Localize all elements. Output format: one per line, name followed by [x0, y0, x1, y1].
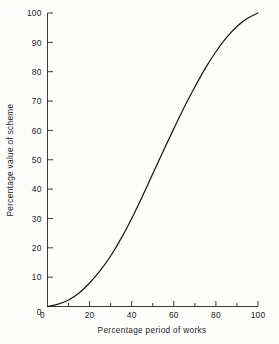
y-tick-label: 60: [32, 126, 42, 136]
s-curve-line: [48, 13, 259, 307]
x-tick-label: 80: [211, 310, 221, 320]
x-axis-label: Percentage period of works: [98, 326, 207, 335]
y-tick-label: 70: [32, 96, 42, 106]
x-tick-label: 20: [85, 310, 95, 320]
s-curve-chart: 0102030405060708090100 020406080100 Perc…: [0, 0, 279, 344]
y-tick-label: 50: [32, 155, 42, 165]
y-axis-label: Percentage value of scheme: [6, 103, 15, 216]
x-axis-tick-labels: 020406080100: [40, 310, 265, 320]
x-tick-label: 40: [127, 310, 137, 320]
x-tick-label: 100: [251, 310, 266, 320]
x-tick-label: 0: [40, 310, 45, 320]
y-axis-ticks: [48, 13, 54, 277]
y-axis-tick-labels: 0102030405060708090100: [27, 8, 42, 317]
y-tick-label: 90: [32, 38, 42, 48]
y-tick-label: 80: [32, 67, 42, 77]
y-tick-label: 20: [32, 243, 42, 253]
y-tick-label: 30: [32, 214, 42, 224]
y-tick-label: 10: [32, 272, 42, 282]
x-axis-ticks: [69, 301, 258, 307]
x-tick-label: 60: [169, 310, 179, 320]
y-tick-label: 100: [27, 8, 42, 18]
chart-container: 0102030405060708090100 020406080100 Perc…: [0, 0, 279, 344]
y-tick-label: 40: [32, 184, 42, 194]
